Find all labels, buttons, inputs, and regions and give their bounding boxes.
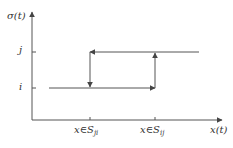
level-j-label: j: [19, 45, 22, 55]
x-tick-label-sji: x∈Sji: [74, 125, 98, 137]
hysteresis-diagram: [0, 0, 233, 148]
x-axis-label: x(t): [210, 125, 227, 135]
x-tick-sub: ji: [94, 129, 98, 137]
x-tick-prefix: x∈S: [74, 124, 94, 135]
x-tick-label-sij: x∈Sij: [140, 125, 164, 137]
x-tick-sub: ij: [160, 129, 164, 137]
level-i-label: i: [19, 82, 22, 92]
x-tick-prefix: x∈S: [140, 124, 160, 135]
y-axis-label: σ(t): [7, 11, 26, 21]
